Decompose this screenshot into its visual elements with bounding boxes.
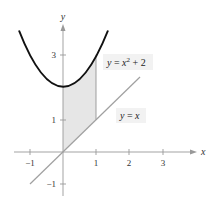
shaded-region (63, 55, 96, 153)
x-axis-label: x (200, 146, 206, 157)
y-tick-label-3: 3 (52, 50, 57, 60)
y-axis-arrow-icon (61, 24, 66, 31)
graph-canvas: −1 1 2 3 3 1 −1 x y y = x2 + 2 y = x (0, 0, 216, 208)
x-tick-label-neg1: −1 (25, 158, 35, 168)
line-label: y = x (119, 110, 140, 121)
x-axis-arrow-icon (190, 150, 197, 155)
parabola-label: y = x2 + 2 (106, 56, 146, 68)
x-tick-label-1: 1 (94, 158, 99, 168)
y-tick-label-1: 1 (52, 115, 57, 125)
x-tick-label-3: 3 (161, 158, 166, 168)
y-tick-label-neg1: −1 (46, 179, 56, 189)
x-tick-label-2: 2 (127, 158, 132, 168)
y-axis-label: y (60, 11, 66, 22)
